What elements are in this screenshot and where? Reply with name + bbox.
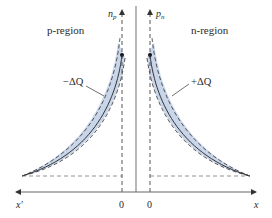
left-charge-leader: [86, 86, 104, 96]
left-origin-label: 0: [119, 200, 124, 210]
n-region-label: n-region: [191, 25, 228, 36]
pn-axis-label: pn: [156, 9, 165, 21]
pn-subscript: n: [161, 13, 165, 21]
p-region-label: p-region: [47, 25, 84, 36]
right-charge-leader: [172, 84, 189, 96]
negative-charge-label: −ΔQ: [63, 77, 83, 88]
right-curve-solid: [150, 55, 250, 176]
np-subscript: p: [113, 13, 117, 21]
np-axis-label: np: [108, 9, 117, 21]
right-origin-label: 0: [147, 200, 152, 210]
diagram-canvas: [0, 0, 272, 218]
x-prime-label: x′: [16, 200, 23, 210]
x-label: x: [254, 200, 258, 210]
left-curve-solid: [22, 55, 122, 176]
positive-charge-label: +ΔQ: [191, 77, 211, 88]
minority-carrier-diagram: p-region n-region np pn −ΔQ +ΔQ x′ x 0 0: [0, 0, 272, 218]
